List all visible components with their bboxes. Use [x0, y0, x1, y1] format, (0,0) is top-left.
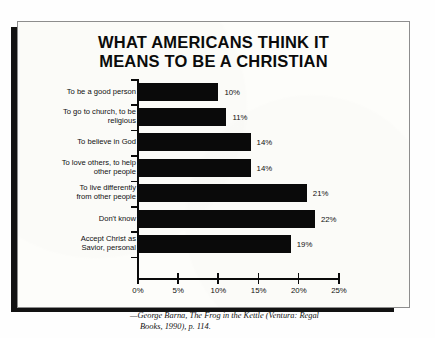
bar-category-label-line: Don't know — [0, 214, 136, 223]
bar-category-label: To live differentlyfrom other people — [0, 184, 136, 202]
x-axis-tick-label: 5% — [173, 286, 184, 295]
y-axis-tick — [131, 181, 139, 183]
y-axis-tick — [131, 79, 139, 81]
bar-category-label-line: religious — [0, 117, 136, 126]
bar-container: 11% — [138, 108, 398, 126]
bar-container: 14% — [138, 159, 398, 177]
bar-value-label: 21% — [313, 189, 329, 198]
bar — [138, 184, 307, 202]
bar-value-label: 10% — [224, 87, 240, 96]
chart-row: Don't know22% — [18, 206, 409, 231]
bar-category-label: To be a good person — [0, 87, 136, 96]
bar-value-label: 14% — [257, 163, 273, 172]
x-axis-tick-label: 0% — [132, 286, 143, 295]
bar — [138, 108, 226, 126]
y-axis-tick — [131, 104, 139, 106]
y-axis-tick — [131, 206, 139, 208]
bar-value-label: 11% — [232, 113, 247, 122]
source-caption: —George Barna, The Frog in the Kettle (V… — [130, 310, 380, 332]
x-axis-tick — [177, 273, 179, 284]
bar-container: 22% — [138, 210, 398, 228]
bar-category-label-line: To be a good person — [0, 87, 136, 96]
chart-title: WHAT AMERICANS THINK IT MEANS TO BE A CH… — [18, 33, 409, 71]
chart-row: To live differentlyfrom other people21% — [18, 181, 409, 206]
x-axis-line — [137, 278, 339, 280]
bar-category-label-line: from other people — [0, 193, 136, 202]
bar-value-label: 14% — [257, 138, 273, 147]
bar-container: 10% — [138, 83, 398, 101]
bar-category-label: To go to church, to bereligious — [0, 108, 136, 126]
chart-frame: WHAT AMERICANS THINK IT MEANS TO BE A CH… — [17, 21, 410, 308]
page-root: WHAT AMERICANS THINK IT MEANS TO BE A CH… — [0, 0, 435, 338]
x-axis-tick — [338, 273, 340, 284]
x-axis-tick-label: 10% — [211, 286, 227, 295]
bar-category-label: To believe in God — [0, 138, 136, 147]
chart-row: To go to church, to bereligious11% — [18, 104, 409, 129]
chart-row: To believe in God14% — [18, 130, 409, 155]
bar-category-label: To love others, to helpother people — [0, 159, 136, 177]
x-axis-tick — [137, 273, 139, 284]
x-axis-tick — [298, 273, 300, 284]
y-axis-line — [137, 80, 139, 278]
caption-line-2: Books, 1990), p. 114. — [130, 321, 380, 332]
bar — [138, 210, 315, 228]
bar — [138, 159, 251, 177]
chart-row: To love others, to helpother people14% — [18, 155, 409, 180]
x-axis-tick-label: 25% — [331, 286, 347, 295]
chart-plot-area: To be a good person10%To go to church, t… — [18, 79, 409, 279]
bar-category-label-line: To believe in God — [0, 138, 136, 147]
bar-value-label: 22% — [321, 214, 337, 223]
x-axis-tick-label: 20% — [291, 286, 307, 295]
bar-value-label: 19% — [297, 240, 313, 249]
bar — [138, 133, 251, 151]
y-axis-tick — [131, 231, 139, 233]
caption-line-1: —George Barna, The Frog in the Kettle (V… — [130, 311, 319, 320]
chart-title-line-2: MEANS TO BE A CHRISTIAN — [18, 52, 409, 71]
bar — [138, 83, 218, 101]
y-axis-tick — [131, 130, 139, 132]
bar-category-label: Accept Christ asSavior, personal — [0, 235, 136, 253]
y-axis-tick — [131, 155, 139, 157]
bar — [138, 235, 291, 253]
chart-row: Accept Christ asSavior, personal19% — [18, 231, 409, 256]
chart-row: To be a good person10% — [18, 79, 409, 104]
bar-category-label-line: other people — [0, 168, 136, 177]
x-axis-tick — [258, 273, 260, 284]
x-axis-tick-label: 15% — [251, 286, 267, 295]
bar-container: 14% — [138, 133, 398, 151]
bar-container: 21% — [138, 184, 398, 202]
y-axis-tick — [131, 257, 139, 259]
x-axis-tick — [217, 273, 219, 284]
bar-container: 19% — [138, 235, 398, 253]
bar-category-label-line: Savior, personal — [0, 244, 136, 253]
chart-title-line-1: WHAT AMERICANS THINK IT — [18, 33, 409, 52]
bar-category-label: Don't know — [0, 214, 136, 223]
